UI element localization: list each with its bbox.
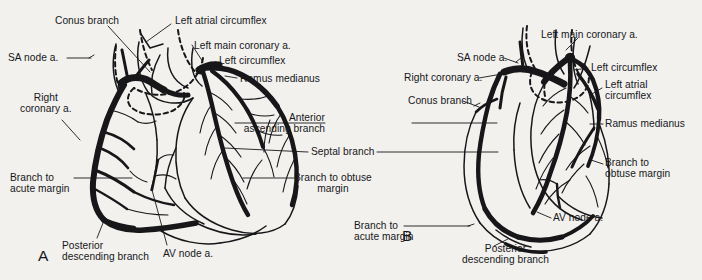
panel-letter-a: A [38, 248, 48, 264]
label-conus-branch-a: Conus branch [55, 15, 119, 26]
label-left-main-coronary-a-b: Left main coronary a. [541, 29, 638, 40]
label-ramus-medianus-a: Ramus medianus [240, 73, 320, 84]
label-ramus-medianus-b: Ramus medianus [605, 118, 685, 129]
label-sa-node-a-b: SA node a. [457, 52, 507, 63]
label-sa-node-a-a: SA node a. [8, 52, 58, 63]
label-right-coronary-a-a: Right coronary a. [20, 92, 72, 115]
label-septal-branch: Septal branch [311, 146, 375, 157]
label-posterior-descending-branch-b: Posterior descending branch [462, 243, 549, 266]
label-left-atrial-circumflex-b: Left atrial circumflex [605, 79, 651, 102]
label-left-circumflex-b: Left circumflex [591, 62, 657, 73]
illustration-artwork: .out { fill:none; stroke:#17171a; stroke… [0, 0, 702, 280]
coronary-artery-figure: .out { fill:none; stroke:#17171a; stroke… [0, 0, 702, 280]
label-left-circumflex-a: Left circumflex [219, 55, 285, 66]
label-av-node-a-b: AV node a. [553, 212, 603, 223]
panel-letter-b: B [402, 228, 412, 244]
label-av-node-a-a: AV node a. [163, 248, 213, 259]
label-branch-to-obtuse-margin-center: Branch to obtuse margin [294, 172, 372, 195]
label-branch-to-acute-margin-a: Branch to acute margin [10, 172, 70, 195]
label-right-coronary-a-b: Right coronary a. [404, 72, 482, 83]
label-posterior-descending-branch-a: Posterior descending branch [62, 240, 149, 263]
label-conus-branch-b: Conus branch [408, 95, 472, 106]
label-left-atrial-circumflex-a: Left atrial circumflex [175, 15, 267, 26]
label-branch-to-obtuse-margin-b: Branch to obtuse margin [605, 157, 670, 180]
label-anterior-ascending-branch: Anterior ascending branch [236, 112, 325, 135]
label-left-main-coronary-a-a: Left main coronary a. [194, 40, 291, 51]
